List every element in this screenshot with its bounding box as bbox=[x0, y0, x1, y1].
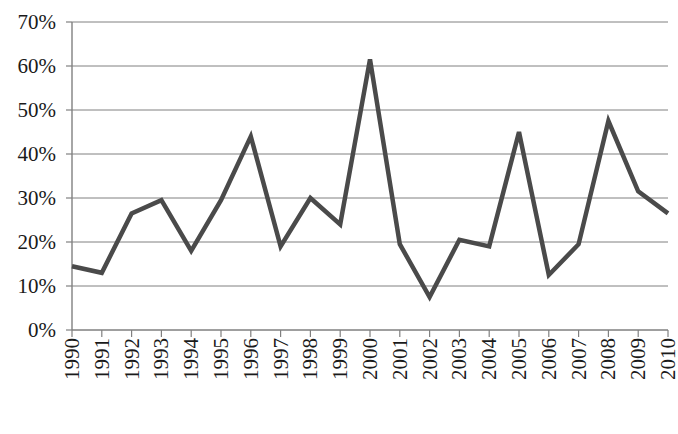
x-axis-tick-label: 2005 bbox=[506, 338, 532, 434]
x-axis-tick-label: 2006 bbox=[536, 338, 562, 434]
x-axis-tick-label: 1994 bbox=[178, 338, 204, 434]
plot-area bbox=[72, 22, 668, 330]
x-axis-tick-label: 2003 bbox=[446, 338, 472, 434]
x-axis-tick-label: 1999 bbox=[327, 338, 353, 434]
x-axis-tick-label: 1990 bbox=[59, 338, 85, 434]
x-axis-tick-label: 2007 bbox=[566, 338, 592, 434]
x-axis-tick-label: 2002 bbox=[417, 338, 443, 434]
x-axis: 1990199119921993199419951996199719981999… bbox=[72, 338, 668, 434]
series-line bbox=[72, 59, 668, 297]
x-axis-tick-label: 1995 bbox=[208, 338, 234, 434]
x-axis-tick-label: 1992 bbox=[119, 338, 145, 434]
x-axis-tick-label: 1998 bbox=[297, 338, 323, 434]
x-axis-tick-label: 2008 bbox=[595, 338, 621, 434]
x-axis-tick-label: 1996 bbox=[238, 338, 264, 434]
y-axis-tick-label: 20% bbox=[18, 232, 57, 253]
y-axis-tick-label: 50% bbox=[18, 100, 57, 121]
y-axis-tick-label: 60% bbox=[18, 56, 57, 77]
y-axis-tick-label: 40% bbox=[18, 144, 57, 165]
x-axis-tick-label: 1993 bbox=[148, 338, 174, 434]
data-series bbox=[72, 59, 668, 297]
y-axis-tick-label: 30% bbox=[18, 188, 57, 209]
x-axis-tick-label: 2004 bbox=[476, 338, 502, 434]
y-axis: 0%10%20%30%40%50%60%70% bbox=[0, 0, 66, 434]
y-axis-tick-label: 10% bbox=[18, 276, 57, 297]
x-axis-tick-label: 2009 bbox=[625, 338, 651, 434]
x-axis-tick-label: 1997 bbox=[268, 338, 294, 434]
x-axis-tick-label: 1991 bbox=[89, 338, 115, 434]
x-axis-tick-label: 2000 bbox=[357, 338, 383, 434]
y-axis-tick-label: 70% bbox=[18, 12, 57, 33]
plot-svg bbox=[72, 22, 668, 330]
x-axis-tick-label: 2010 bbox=[655, 338, 678, 434]
x-axis-tick-label: 2001 bbox=[387, 338, 413, 434]
line-chart: 0%10%20%30%40%50%60%70% 1990199119921993… bbox=[0, 0, 678, 434]
y-axis-tick-label: 0% bbox=[28, 320, 56, 341]
